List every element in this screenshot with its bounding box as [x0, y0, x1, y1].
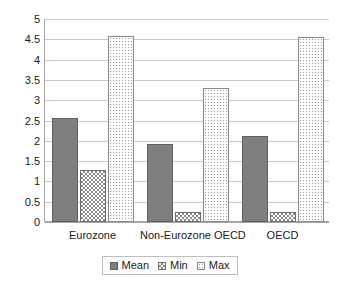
category-axis: EurozoneNon-Eurozone OECDOECD	[45, 228, 329, 246]
bar-min-oecd	[270, 212, 296, 222]
legend-entry-mean[interactable]: Mean	[109, 260, 149, 271]
bar-group	[140, 19, 235, 222]
y-axis-tick-label: 0.5	[0, 196, 40, 207]
y-axis-tick-label: 1.5	[0, 156, 40, 167]
bar-mean-oecd	[242, 136, 268, 222]
bars-layer	[45, 19, 329, 222]
bar-max-eurozone	[108, 36, 134, 222]
legend-entry-max[interactable]: Max	[197, 260, 230, 271]
gridline	[45, 222, 329, 223]
y-axis-tick-label: 4	[0, 54, 40, 65]
legend-swatch-max-icon	[197, 262, 205, 270]
legend-swatch-min-icon	[158, 262, 166, 270]
category-label-non-eurozone-oecd: Non-Eurozone OECD	[140, 228, 235, 242]
y-axis: 54.543.532.521.510.50	[0, 19, 40, 222]
y-axis-tick-label: 1	[0, 176, 40, 187]
bar-group	[45, 19, 140, 222]
bar-max-non-eurozone-oecd	[203, 88, 229, 222]
bar-max-oecd	[298, 37, 324, 222]
y-axis-tick-label: 3	[0, 95, 40, 106]
legend-label: Min	[170, 260, 188, 271]
y-axis-tick-label: 0	[0, 217, 40, 228]
legend-entry-min[interactable]: Min	[158, 260, 188, 271]
y-axis-tick-label: 4.5	[0, 34, 40, 45]
bar-mean-eurozone	[52, 118, 78, 222]
bar-group	[235, 19, 330, 222]
y-axis-tick-label: 5	[0, 14, 40, 25]
y-axis-tick-label: 2	[0, 135, 40, 146]
category-label-eurozone: Eurozone	[45, 228, 140, 242]
legend-label: Mean	[121, 260, 149, 271]
chart-legend: MeanMinMax	[101, 256, 237, 275]
bar-min-non-eurozone-oecd	[175, 212, 201, 222]
legend-swatch-mean-icon	[109, 262, 117, 270]
bar-mean-non-eurozone-oecd	[147, 144, 173, 222]
legend-label: Max	[209, 260, 230, 271]
y-axis-tick-label: 2.5	[0, 115, 40, 126]
y-axis-tick-label: 3.5	[0, 74, 40, 85]
bar-chart: 54.543.532.521.510.50 EurozoneNon-Eurozo…	[0, 0, 339, 284]
category-label-oecd: OECD	[235, 228, 330, 242]
bar-min-eurozone	[80, 170, 106, 222]
